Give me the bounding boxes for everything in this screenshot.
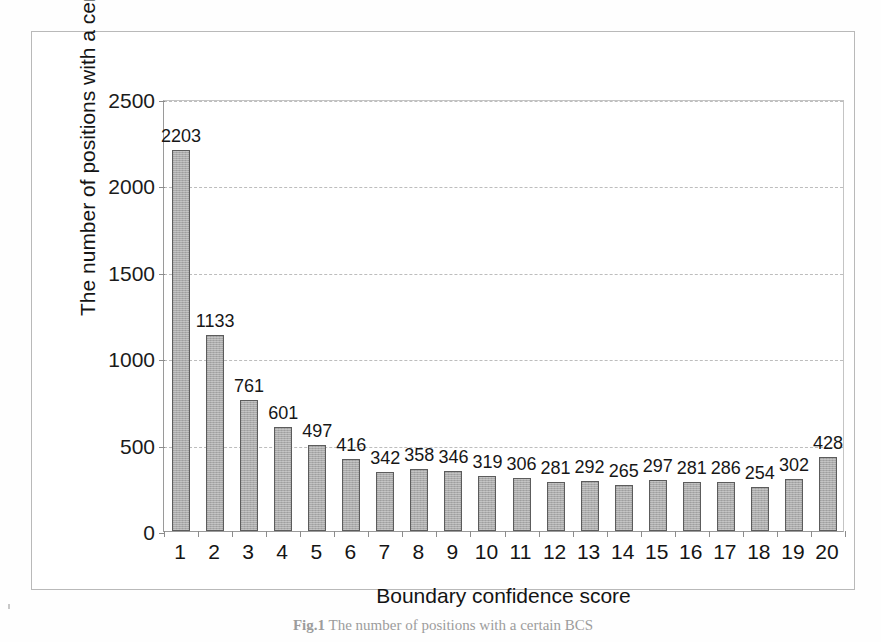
- figure-caption-text: The number of positions with a certain B…: [329, 617, 594, 633]
- bar-group: 265: [607, 101, 641, 531]
- bar-group: 497: [300, 101, 334, 531]
- bar-value-label: 358: [404, 445, 434, 466]
- bar-group: 281: [675, 101, 709, 531]
- bar-group: 302: [777, 101, 811, 531]
- x-axis-tick: [573, 531, 574, 537]
- bar: [308, 445, 326, 531]
- x-axis-tick-label: 16: [679, 540, 702, 564]
- figure-frame: The number of positions with a certain B…: [31, 31, 855, 590]
- x-axis-tick-label: 18: [747, 540, 770, 564]
- bar-value-label: 416: [336, 435, 366, 456]
- x-axis-tick-label: 9: [447, 540, 459, 564]
- x-axis-tick: [402, 531, 403, 537]
- bar: [240, 400, 258, 532]
- x-axis-tick-label: 15: [645, 540, 668, 564]
- x-axis-tick: [368, 531, 369, 537]
- x-axis-tick: [709, 531, 710, 537]
- bar-value-label: 292: [575, 457, 605, 478]
- x-axis-tick-label: 14: [611, 540, 634, 564]
- x-axis-tick: [539, 531, 540, 537]
- bar-value-label: 319: [472, 452, 502, 473]
- x-axis-tick-label: 1: [174, 540, 186, 564]
- x-axis-tick-label: 11: [510, 540, 532, 564]
- y-axis-tick-label: 1500: [108, 262, 155, 286]
- bar-group: 2203: [164, 101, 198, 531]
- x-axis-tick-label: 3: [242, 540, 254, 564]
- plot-area: 0500100015002000250022031133761601497416…: [163, 100, 844, 532]
- x-axis-tick: [470, 531, 471, 537]
- bar-value-label: 302: [779, 455, 809, 476]
- bar: [444, 471, 462, 531]
- bar-group: 286: [709, 101, 743, 531]
- bar-value-label: 2203: [161, 126, 201, 147]
- x-axis-tick: [232, 531, 233, 537]
- bar: [410, 469, 428, 531]
- y-axis-tick-label: 1000: [108, 348, 155, 372]
- bar-group: 297: [641, 101, 675, 531]
- scan-artifact: [8, 604, 10, 609]
- bar: [478, 476, 496, 531]
- bar: [206, 335, 224, 531]
- bar: [615, 485, 633, 531]
- bar-value-label: 601: [268, 403, 298, 424]
- bar-value-label: 297: [643, 456, 673, 477]
- x-axis-tick: [641, 531, 642, 537]
- bar-group: 306: [505, 101, 539, 531]
- bar-group: 1133: [198, 101, 232, 531]
- x-axis-tick: [743, 531, 744, 537]
- bar: [513, 478, 531, 531]
- figure-caption: Fig.1 The number of positions with a cer…: [31, 617, 855, 634]
- x-axis-tick: [300, 531, 301, 537]
- bar: [717, 482, 735, 531]
- x-axis-tick-label: 10: [475, 540, 498, 564]
- x-axis-tick: [436, 531, 437, 537]
- bar-value-label: 306: [506, 454, 536, 475]
- bar-group: 416: [334, 101, 368, 531]
- bar: [342, 459, 360, 531]
- x-axis-tick-label: 7: [378, 540, 390, 564]
- bar-value-label: 761: [234, 376, 264, 397]
- x-axis-tick-label: 4: [276, 540, 288, 564]
- bar-value-label: 265: [609, 461, 639, 482]
- bar-group: 601: [266, 101, 300, 531]
- x-axis-tick: [164, 531, 165, 537]
- x-axis-tick: [266, 531, 267, 537]
- bar-group: 761: [232, 101, 266, 531]
- x-axis-tick-label: 2: [208, 540, 220, 564]
- bar: [547, 482, 565, 531]
- x-axis-tick-label: 19: [781, 540, 804, 564]
- figure-caption-label: Fig.1: [293, 617, 325, 633]
- bar: [819, 457, 837, 531]
- bar: [649, 480, 667, 531]
- bar-value-label: 281: [677, 458, 707, 479]
- x-axis-tick: [845, 531, 846, 537]
- bar: [172, 150, 190, 531]
- bar-group: 254: [743, 101, 777, 531]
- bar-value-label: 281: [541, 458, 571, 479]
- bar-value-label: 428: [813, 433, 843, 454]
- bar: [751, 487, 769, 531]
- scanned-page: The number of positions with a certain B…: [0, 0, 881, 642]
- bar-group: 428: [811, 101, 845, 531]
- bar-group: 342: [368, 101, 402, 531]
- x-axis-tick-label: 6: [344, 540, 356, 564]
- x-axis-title: Boundary confidence score: [163, 584, 844, 608]
- bar-group: 292: [573, 101, 607, 531]
- y-axis-tick-label: 500: [120, 435, 155, 459]
- y-axis-tick-label: 0: [143, 521, 155, 545]
- bar-value-label: 254: [745, 463, 775, 484]
- x-axis-tick: [777, 531, 778, 537]
- bar-value-label: 286: [711, 458, 741, 479]
- x-axis-tick: [198, 531, 199, 537]
- x-axis-tick-label: 8: [413, 540, 425, 564]
- bar-group: 281: [539, 101, 573, 531]
- bar-group: 346: [436, 101, 470, 531]
- x-axis-tick-label: 12: [543, 540, 566, 564]
- bar-value-label: 346: [438, 447, 468, 468]
- x-axis-tick: [811, 531, 812, 537]
- bar-value-label: 1133: [196, 311, 235, 332]
- bar: [376, 472, 394, 531]
- x-axis-tick: [675, 531, 676, 537]
- x-axis-tick: [505, 531, 506, 537]
- y-axis-tick-label: 2500: [108, 89, 155, 113]
